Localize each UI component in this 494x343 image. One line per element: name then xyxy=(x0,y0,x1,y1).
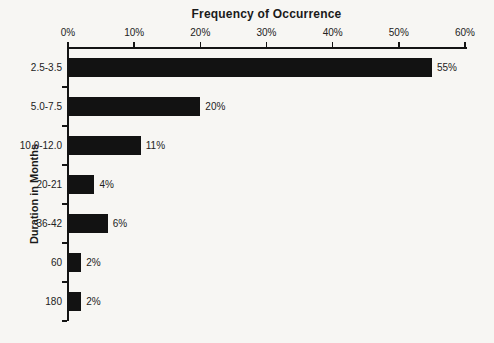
x-tick-mark xyxy=(133,42,135,47)
bar-value-label: 20% xyxy=(205,101,225,112)
bar xyxy=(68,97,200,116)
bar-chart: Frequency of Occurrence Duration in Mont… xyxy=(0,0,494,343)
x-tick-mark xyxy=(398,42,400,47)
y-tick-mark xyxy=(62,203,67,205)
category-label: 60 xyxy=(6,257,62,268)
y-tick-mark xyxy=(62,281,67,283)
x-tick-label: 40% xyxy=(311,27,355,38)
y-tick-mark xyxy=(62,164,67,166)
x-tick-mark xyxy=(266,42,268,47)
bar xyxy=(68,136,141,155)
bar xyxy=(68,214,108,233)
x-tick-mark xyxy=(464,42,466,47)
x-axis-line xyxy=(68,47,467,49)
category-label: 20-21 xyxy=(6,179,62,190)
x-tick-label: 30% xyxy=(245,27,289,38)
category-label: 2.5-3.5 xyxy=(6,62,62,73)
x-tick-mark xyxy=(67,42,69,47)
bar xyxy=(68,175,94,194)
chart-title: Frequency of Occurrence xyxy=(68,7,465,21)
bar xyxy=(68,253,81,272)
category-label: 36-42 xyxy=(6,218,62,229)
bar-value-label: 55% xyxy=(437,62,457,73)
bar-value-label: 2% xyxy=(86,296,100,307)
bar xyxy=(68,292,81,311)
bar-value-label: 6% xyxy=(113,218,127,229)
bar xyxy=(68,58,432,77)
y-tick-mark xyxy=(62,242,67,244)
bar-value-label: 4% xyxy=(99,179,113,190)
category-label: 180 xyxy=(6,296,62,307)
y-tick-mark xyxy=(62,125,67,127)
x-tick-label: 0% xyxy=(46,27,90,38)
x-tick-label: 60% xyxy=(443,27,487,38)
x-tick-mark xyxy=(332,42,334,47)
category-label: 10.0-12.0 xyxy=(6,140,62,151)
x-tick-label: 10% xyxy=(112,27,156,38)
x-tick-label: 20% xyxy=(178,27,222,38)
bar-value-label: 2% xyxy=(86,257,100,268)
x-tick-mark xyxy=(200,42,202,47)
y-tick-mark xyxy=(62,86,67,88)
y-tick-mark xyxy=(62,320,67,322)
x-tick-label: 50% xyxy=(377,27,421,38)
category-label: 5.0-7.5 xyxy=(6,101,62,112)
y-axis-title: Duration in Months xyxy=(28,134,40,254)
bar-value-label: 11% xyxy=(146,140,165,151)
